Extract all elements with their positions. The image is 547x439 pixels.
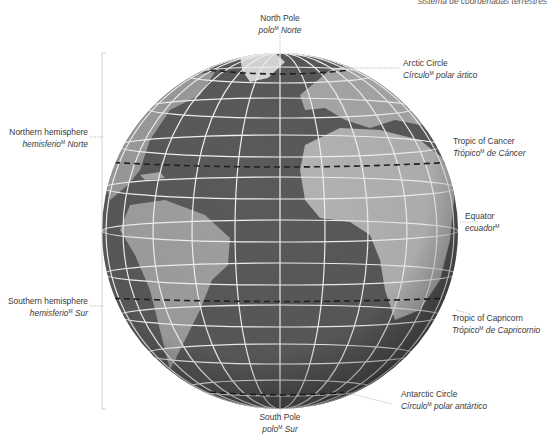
label-equator: Equator ecuadorM: [465, 211, 499, 234]
label-tropic-capricorn-en: Tropic of Capricorn: [452, 313, 540, 323]
label-south-pole-en: South Pole: [230, 412, 330, 422]
label-equator-en: Equator: [465, 211, 499, 221]
label-northern-hemisphere-en: Northern hemisphere: [0, 127, 88, 137]
label-tropic-capricorn-es: TrópicoM de Capricornio: [452, 323, 540, 335]
label-south-pole: South Pole poloM Sur: [230, 412, 330, 435]
label-southern-hemisphere-en: Southern hemisphere: [0, 296, 88, 306]
label-arctic-circle-es: CírculoM polar ártico: [403, 68, 477, 80]
label-north-pole-es: poloM Norte: [230, 23, 330, 35]
label-tropic-cancer-es: TrópicoM de Cáncer: [453, 146, 525, 158]
label-north-pole: North Pole poloM Norte: [230, 13, 330, 36]
label-north-pole-en: North Pole: [230, 13, 330, 23]
label-northern-hemisphere-es: hemisferioM Norte: [0, 137, 88, 149]
label-antarctic-circle: Antarctic Circle CírculoM polar antártic…: [401, 389, 487, 412]
label-south-pole-es: poloM Sur: [230, 422, 330, 434]
label-antarctic-circle-es: CírculoM polar antártico: [401, 399, 487, 411]
label-arctic-circle: Arctic Circle CírculoM polar ártico: [403, 58, 477, 81]
leader-antarctic-circle: [344, 392, 392, 404]
label-southern-hemisphere-es: hemisferioM Sur: [0, 306, 88, 318]
label-southern-hemisphere: Southern hemisphere hemisferioM Sur: [0, 296, 88, 319]
label-tropic-of-capricorn: Tropic of Capricorn TrópicoM de Capricor…: [452, 313, 540, 336]
label-arctic-circle-en: Arctic Circle: [403, 58, 477, 68]
label-northern-hemisphere: Northern hemisphere hemisferioM Norte: [0, 127, 88, 150]
hemisphere-bracket: [102, 53, 106, 409]
label-equator-es: ecuadorM: [465, 221, 499, 233]
label-antarctic-circle-en: Antarctic Circle: [401, 389, 487, 399]
globe-shading: [102, 53, 458, 409]
label-tropic-of-cancer: Tropic of Cancer TrópicoM de Cáncer: [453, 136, 525, 159]
label-tropic-cancer-en: Tropic of Cancer: [453, 136, 525, 146]
